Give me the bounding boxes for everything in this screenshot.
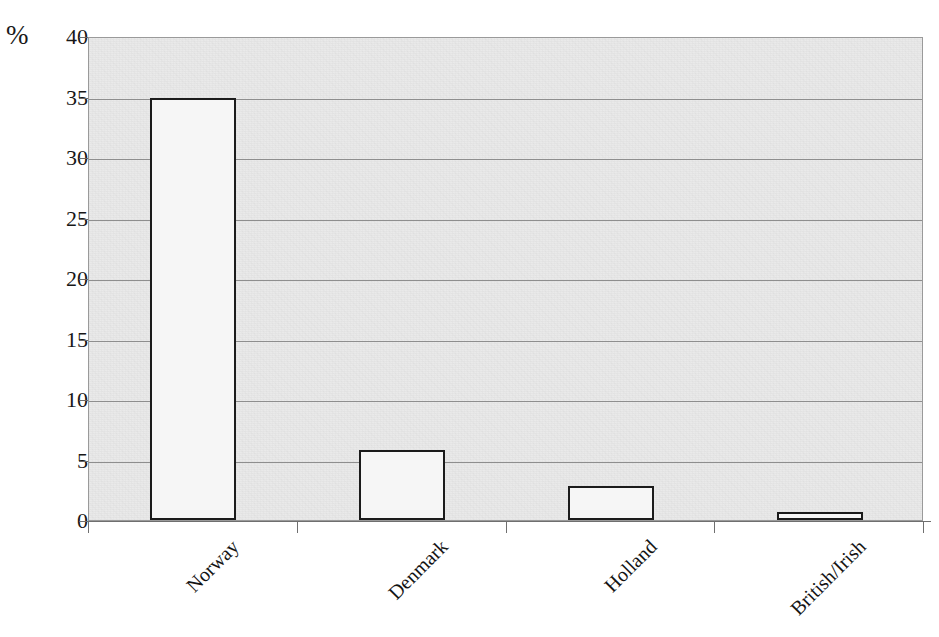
y-axis-tick-mark [79, 98, 88, 99]
y-axis: 4035302520151050 [0, 0, 88, 637]
x-axis-label-norway: Norway [67, 536, 242, 637]
bar-british-irish [777, 512, 863, 520]
x-axis-tick-mark [297, 522, 298, 533]
y-axis-tick-mark [79, 37, 88, 38]
plot-area [88, 37, 923, 521]
y-axis-tick-mark [79, 340, 88, 341]
y-axis-tick-mark [79, 400, 88, 401]
y-axis-tick-mark [79, 461, 88, 462]
x-axis-tick-mark [923, 522, 924, 533]
x-axis-tick-mark [714, 522, 715, 533]
y-axis-tick-mark [79, 219, 88, 220]
bar-denmark [359, 450, 445, 520]
x-axis-tick-mark [506, 522, 507, 533]
bar-chart: % 4035302520151050 NorwayDenmarkHollandB… [0, 0, 939, 637]
x-axis-tick-mark [88, 522, 89, 533]
y-axis-tick-mark [79, 158, 88, 159]
bar-norway [150, 98, 236, 520]
y-axis-tick-mark [79, 279, 88, 280]
bar-holland [568, 486, 654, 520]
